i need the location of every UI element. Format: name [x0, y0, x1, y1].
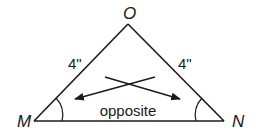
- vertex-label-n: N: [232, 112, 245, 131]
- angle-arc-m: [56, 98, 63, 121]
- vertex-label-m: M: [17, 112, 32, 131]
- isosceles-triangle-diagram: O M N 4" 4" opposite: [0, 0, 256, 138]
- side-length-right: 4": [178, 55, 192, 72]
- angle-arc-n: [195, 98, 202, 121]
- vertex-label-o: O: [123, 4, 136, 23]
- side-length-left: 4": [68, 55, 82, 72]
- opposite-annotation: opposite: [100, 102, 157, 119]
